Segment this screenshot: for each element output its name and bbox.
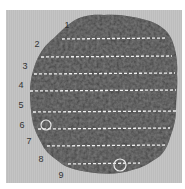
transect-label-7: 7 [26,137,31,146]
transect-label-1: 1 [64,21,69,30]
transect-label-2: 2 [34,40,39,49]
transect-label-4: 4 [18,81,23,90]
transect-label-8: 8 [38,155,43,164]
transect-label-5: 5 [18,101,23,110]
transect-label-9: 9 [58,171,63,180]
transect-label-3: 3 [22,62,27,71]
transect-label-6: 6 [19,121,24,130]
specimen-image [0,0,185,189]
